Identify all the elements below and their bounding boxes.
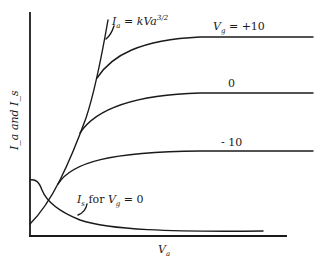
label-vg-minus10: - 10 [221,136,242,149]
curve-vg-0 [80,93,313,133]
curve-is [30,180,263,231]
label-vg-0: 0 [228,77,235,90]
y-axis-label: I_a and I_s [8,90,21,151]
x-axis-label: Va [158,243,170,258]
label-vg-plus10: Vg = +10 [213,20,265,35]
curve-vg-plus10 [97,37,313,78]
label-is: Is for Vg = 0 [76,193,144,208]
label-child-law: Ia = kVa3/2 [111,14,169,30]
characteristic-curves-diagram: Ia = kVa3/2 Vg = +10 0 - 10 Is for Vg = … [0,0,322,267]
curve-vg-minus10 [58,151,313,184]
